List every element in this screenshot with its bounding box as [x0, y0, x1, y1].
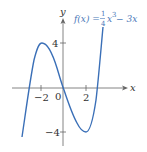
y-axis-label: y — [59, 6, 66, 17]
function-curve — [22, 27, 103, 137]
svg-text:− 3x: − 3x — [116, 14, 137, 24]
svg-text:4: 4 — [101, 20, 106, 28]
x-tick-label-neg2: −2 — [34, 92, 49, 103]
x-axis: x −2 2 0 — [12, 82, 136, 103]
svg-text:f(x) =: f(x) = — [73, 14, 100, 24]
y-tick-label-4: 4 — [52, 38, 58, 49]
origin-label: 0 — [55, 91, 61, 102]
y-tick-label-neg4: −4 — [45, 127, 60, 138]
x-axis-label: x — [130, 82, 136, 93]
y-axis: y 4 −4 — [45, 6, 66, 146]
x-tick-label-2: 2 — [83, 92, 89, 103]
function-label: f(x) = 1 4 x 3 − 3x — [73, 10, 137, 28]
cubic-function-graph: x −2 2 0 y 4 −4 f(x) = 1 4 x 3 − 3x — [0, 0, 147, 152]
svg-text:1: 1 — [101, 10, 105, 18]
